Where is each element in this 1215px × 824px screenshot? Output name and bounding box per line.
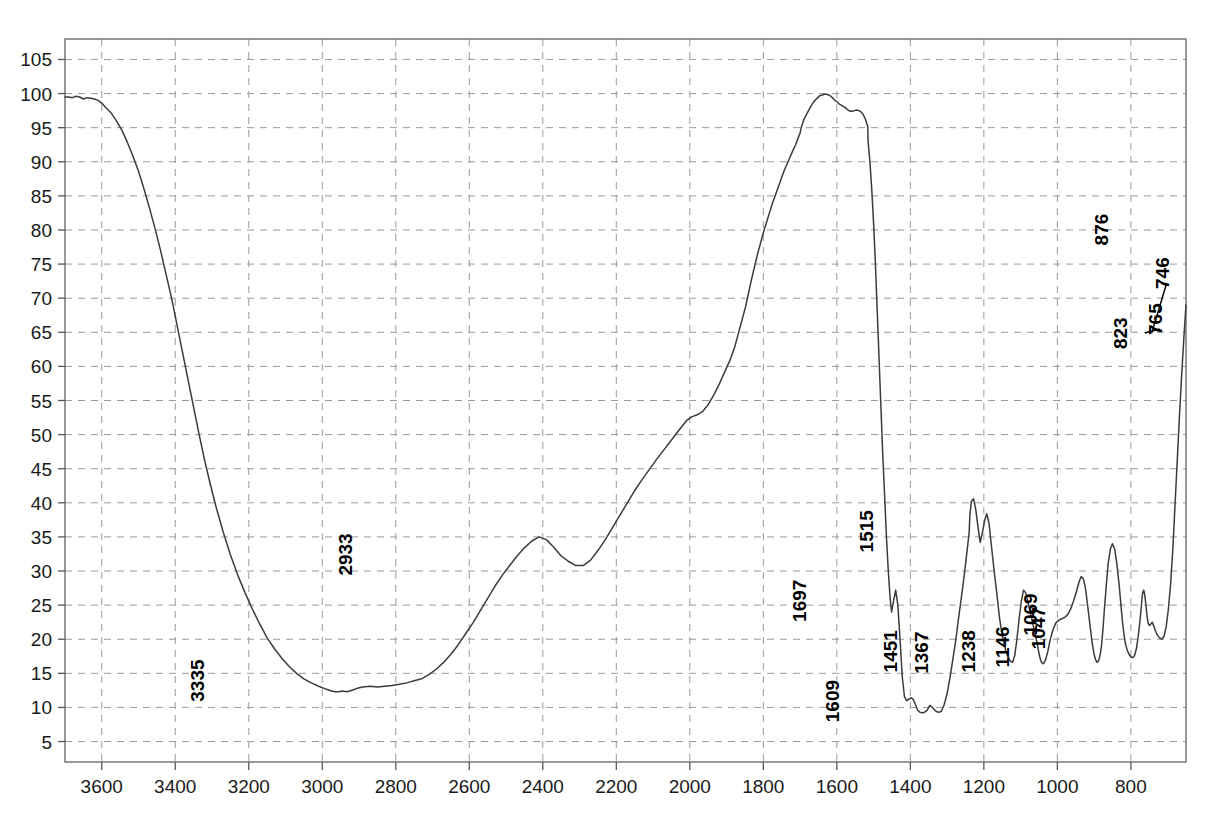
x-tick-label: 1200 — [963, 776, 1005, 797]
y-tick-label: 105 — [20, 49, 52, 70]
peak-label-746: 746 — [1152, 257, 1173, 289]
peak-label-1367: 1367 — [911, 632, 932, 674]
chart-background — [0, 0, 1215, 824]
peak-label-1697: 1697 — [789, 580, 810, 622]
x-tick-label: 800 — [1115, 776, 1147, 797]
peak-label-876: 876 — [1091, 214, 1112, 246]
y-tick-label: 100 — [20, 84, 52, 105]
ir-spectrum-figure: 5101520253035404550556065707580859095100… — [0, 0, 1215, 824]
peak-label-1515: 1515 — [856, 510, 877, 553]
x-tick-label: 3000 — [301, 776, 343, 797]
x-tick-label: 2200 — [595, 776, 637, 797]
x-tick-label: 3200 — [228, 776, 270, 797]
x-tick-label: 1800 — [742, 776, 784, 797]
y-tick-label: 50 — [31, 425, 52, 446]
spectrum-chart-canvas: 5101520253035404550556065707580859095100… — [0, 0, 1215, 824]
y-tick-label: 90 — [31, 152, 52, 173]
y-tick-label: 40 — [31, 493, 52, 514]
peak-label-3335: 3335 — [187, 659, 208, 702]
x-axis-tick-labels: 3600340032003000280026002400220020001800… — [81, 776, 1147, 797]
y-tick-label: 65 — [31, 322, 52, 343]
peak-label-1238: 1238 — [958, 630, 979, 672]
y-tick-label: 95 — [31, 118, 52, 139]
y-tick-label: 60 — [31, 356, 52, 377]
x-tick-label: 2000 — [669, 776, 711, 797]
y-tick-label: 5 — [41, 732, 52, 753]
x-tick-label: 1400 — [889, 776, 931, 797]
x-tick-label: 1600 — [816, 776, 858, 797]
y-tick-label: 70 — [31, 288, 52, 309]
x-tick-label: 2400 — [522, 776, 564, 797]
y-tick-label: 15 — [31, 663, 52, 684]
peak-label-1609: 1609 — [822, 680, 843, 722]
y-tick-label: 20 — [31, 629, 52, 650]
x-tick-label: 3400 — [154, 776, 196, 797]
peak-label-1047: 1047 — [1028, 607, 1049, 649]
y-tick-label: 80 — [31, 220, 52, 241]
x-tick-label: 1000 — [1036, 776, 1078, 797]
peak-label-765: 765 — [1145, 303, 1166, 335]
y-tick-label: 10 — [31, 697, 52, 718]
peak-label-2933: 2933 — [335, 533, 356, 575]
y-tick-label: 45 — [31, 459, 52, 480]
y-tick-label: 85 — [31, 186, 52, 207]
peak-label-1451: 1451 — [880, 630, 901, 673]
x-tick-label: 2800 — [375, 776, 417, 797]
y-tick-label: 75 — [31, 254, 52, 275]
x-tick-label: 2600 — [448, 776, 490, 797]
y-tick-label: 55 — [31, 391, 52, 412]
peak-label-1146: 1146 — [992, 626, 1013, 667]
x-tick-label: 3600 — [81, 776, 123, 797]
y-tick-label: 25 — [31, 595, 52, 616]
y-tick-label: 35 — [31, 527, 52, 548]
peak-label-823: 823 — [1110, 317, 1131, 349]
y-tick-label: 30 — [31, 561, 52, 582]
